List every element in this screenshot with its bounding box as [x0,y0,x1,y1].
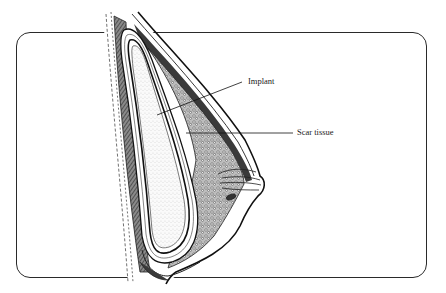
implant-label: Implant [248,77,274,86]
scar-tissue-label: Scar tissue [297,128,334,137]
breast-implant-illustration [0,0,446,293]
